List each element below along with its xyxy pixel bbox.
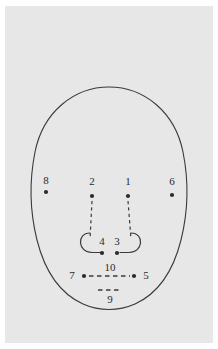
point-1-dot[interactable] [126, 194, 130, 198]
connector-nose-left [90, 201, 92, 239]
point-2-label: 2 [89, 176, 95, 187]
point-7-dot[interactable] [82, 274, 86, 278]
point-5-dot[interactable] [132, 274, 136, 278]
point-4-dot[interactable] [100, 251, 104, 255]
point-7-label: 7 [69, 270, 75, 281]
point-3-label: 3 [114, 236, 120, 247]
figure-canvas: 1 2 3 4 5 6 7 8 9 10 [0, 0, 218, 349]
point-2-dot[interactable] [90, 194, 94, 198]
point-8-dot[interactable] [44, 190, 48, 194]
point-8-label: 8 [43, 175, 49, 186]
point-6-label: 6 [169, 176, 175, 187]
point-3-dot[interactable] [115, 251, 119, 255]
measure-10-label: 10 [105, 262, 116, 273]
point-5-label: 5 [143, 270, 149, 281]
measure-9-label: 9 [107, 294, 113, 305]
point-6-dot[interactable] [170, 193, 174, 197]
point-1-label: 1 [125, 176, 131, 187]
point-4-label: 4 [99, 236, 105, 247]
connector-nose-right [128, 201, 131, 239]
